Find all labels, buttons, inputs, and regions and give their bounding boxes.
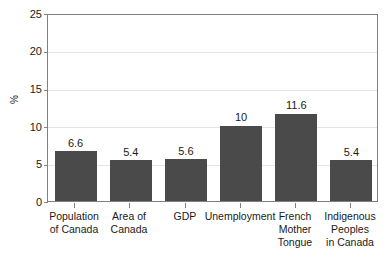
bar: [165, 159, 207, 201]
bar: [110, 160, 152, 201]
x-tick-mark: [240, 203, 241, 208]
x-tick-mark: [185, 203, 186, 208]
x-category-label: Indigenous Peoples in Canada: [317, 210, 383, 249]
bar: [220, 126, 262, 201]
bar-value-label: 10: [235, 111, 247, 123]
x-tick-mark: [350, 203, 351, 208]
x-category-label: Unemployment: [200, 210, 280, 223]
bar-value-label: 11.6: [286, 99, 307, 111]
y-axis-tick-labels: 25 20 15 10 5 0: [0, 0, 42, 261]
bar-group: 5.6: [158, 15, 213, 201]
plot-area: 6.6 5.4 5.6 10 11.6 5.4: [47, 14, 378, 202]
y-tick-label: 0: [20, 197, 42, 208]
bar: [330, 160, 372, 201]
x-tick-mark: [74, 203, 75, 208]
bar-value-label: 5.4: [123, 146, 138, 158]
bar-value-label: 5.4: [344, 146, 359, 158]
y-tick-label: 20: [20, 46, 42, 57]
bar: [275, 114, 317, 201]
y-tick-label: 15: [20, 84, 42, 95]
y-tick-mark: [44, 202, 48, 203]
bar-group: 5.4: [103, 15, 158, 201]
bar-group: 10: [214, 15, 269, 201]
bar-group: 5.4: [324, 15, 379, 201]
y-tick-label: 10: [20, 122, 42, 133]
bar-chart: % 25 20 15 10 5 0 6.6 5.4: [0, 0, 386, 261]
bar-value-label: 5.6: [178, 145, 193, 157]
x-category-label: Area of Canada: [98, 210, 160, 236]
x-tick-mark: [295, 203, 296, 208]
y-tick-label: 25: [20, 9, 42, 20]
bar-group: 11.6: [269, 15, 324, 201]
bar: [55, 151, 97, 201]
bar-group: 6.6: [48, 15, 103, 201]
bar-value-label: 6.6: [68, 137, 83, 149]
y-tick-label: 5: [20, 159, 42, 170]
x-tick-mark: [129, 203, 130, 208]
x-category-label: French Mother Tongue: [269, 210, 321, 249]
bars-layer: 6.6 5.4 5.6 10 11.6 5.4: [48, 15, 377, 201]
